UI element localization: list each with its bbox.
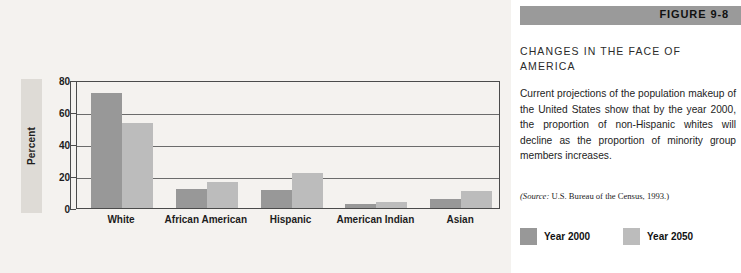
legend-label: Year 2050: [647, 231, 693, 242]
y-tick-mark: [70, 81, 76, 82]
figure-title: CHANGES IN THE FACE OF AMERICA: [520, 44, 725, 74]
source-prefix: (Source:: [520, 191, 549, 201]
y-axis-tick-labels: 020406080: [44, 74, 70, 208]
figure-number-label: FIGURE 9-8: [659, 8, 729, 20]
plot-area: [76, 81, 500, 209]
figure-container: Percent 020406080 WhiteAfrican AmericanH…: [0, 0, 741, 273]
legend-swatch: [520, 228, 537, 245]
figure-description: Current projections of the population ma…: [520, 86, 736, 164]
y-axis-label-text: Percent: [26, 127, 37, 165]
bar: [430, 199, 461, 208]
y-tick-label: 60: [44, 108, 70, 119]
legend-swatch: [623, 228, 640, 245]
legend-entry: Year 2050: [623, 227, 693, 245]
bar: [207, 182, 238, 208]
y-tick-mark: [70, 209, 76, 210]
y-tick-mark: [70, 145, 76, 146]
x-tick-label: American Indian: [332, 214, 418, 227]
chart-panel: Percent 020406080 WhiteAfrican AmericanH…: [0, 0, 511, 273]
x-tick-label: African American: [163, 214, 249, 227]
x-tick-label: Asian: [417, 214, 503, 227]
legend-entry: Year 2000: [520, 227, 590, 245]
bar: [91, 93, 122, 208]
x-tick-label: White: [78, 214, 164, 227]
bar: [261, 190, 292, 208]
legend: Year 2000Year 2050: [520, 227, 736, 249]
y-tick-label: 0: [44, 204, 70, 215]
y-axis-label: Percent: [21, 79, 42, 213]
bar: [176, 189, 207, 208]
bar: [376, 202, 407, 208]
bar: [345, 204, 376, 208]
y-tick-mark: [70, 113, 76, 114]
bar: [122, 123, 153, 208]
legend-label: Year 2000: [544, 231, 590, 242]
y-tick-mark: [70, 177, 76, 178]
bar: [461, 191, 492, 208]
bar: [292, 173, 323, 208]
x-axis-tick-labels: WhiteAfrican AmericanHispanicAmerican In…: [76, 214, 500, 256]
description-panel: FIGURE 9-8 CHANGES IN THE FACE OF AMERIC…: [511, 0, 741, 273]
source-text: U.S. Bureau of the Census, 1993.): [549, 191, 669, 201]
y-tick-label: 20: [44, 172, 70, 183]
bar-series-group: [77, 82, 499, 208]
y-tick-label: 40: [44, 140, 70, 151]
panel-divider: [511, 0, 512, 273]
y-tick-label: 80: [44, 76, 70, 87]
figure-source: (Source: U.S. Bureau of the Census, 1993…: [520, 191, 736, 201]
x-tick-label: Hispanic: [248, 214, 334, 227]
